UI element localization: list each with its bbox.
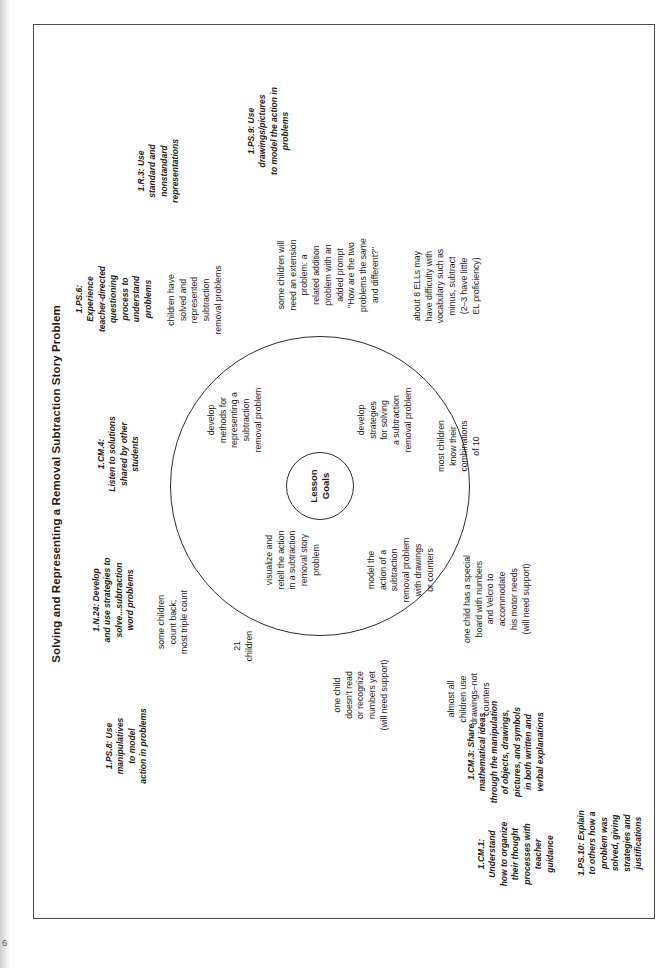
standard-1-r-3: 1.R.3: Use standard and nonstandard repr… bbox=[136, 118, 182, 224]
note-ell-support: about 8 ELLs may have difficulty with vo… bbox=[412, 226, 482, 346]
standard-1-cm-1: 1.CM.1: Understand how to organize their… bbox=[476, 804, 556, 904]
note-nonreader-support: one child doesn't read or recognize numb… bbox=[332, 636, 391, 754]
goal-develop-strategies: develop strategies for solving a subtrac… bbox=[356, 368, 415, 472]
note-prior-experience: children have solved and represented sub… bbox=[166, 246, 225, 354]
standard-1-n-24: 1.N.24: Develop and use strategies to so… bbox=[91, 534, 137, 666]
goal-develop-methods: develop methods for representing a subtr… bbox=[206, 368, 265, 472]
standard-1-ps-9: 1.PS.9: Use drawings/pictures to model t… bbox=[246, 60, 292, 202]
page-canvas: 6 Solving and Representing a Removal Sub… bbox=[0, 0, 672, 968]
standard-1-ps-10: 1.PS.10: Explain to others how a problem… bbox=[576, 784, 645, 902]
lesson-goals-label: Lesson Goals bbox=[308, 457, 332, 515]
note-children-count: 21 children bbox=[232, 616, 255, 676]
note-counting-strategies: some children count back; most triple co… bbox=[156, 566, 191, 678]
concept-map-stage: Solving and Representing a Removal Subtr… bbox=[36, 44, 636, 924]
page-number: 6 bbox=[2, 938, 7, 948]
goal-model-action: model the action of a subtraction remova… bbox=[366, 516, 436, 624]
inner-circle: Lesson Goals bbox=[286, 452, 354, 520]
note-extension-problem: some children will need an extension pro… bbox=[276, 218, 382, 332]
standard-1-cm-4: 1.CM.4: Listen to solutions shared by ot… bbox=[96, 390, 142, 518]
goal-visualize-retell: visualize and retell the action in a sub… bbox=[264, 514, 323, 606]
standard-1-ps-6: 1.PS.6: Experience teacher-directed ques… bbox=[74, 246, 154, 352]
scan-edge-shadow bbox=[0, 0, 10, 968]
note-drawings-not-counters: almost all children use drawings–not cou… bbox=[446, 650, 493, 748]
note-combinations-of-ten: most children know their combinations of… bbox=[436, 400, 483, 492]
diagram-title: Solving and Representing a Removal Subtr… bbox=[50, 44, 62, 924]
standard-1-ps-8: 1.PS.8: Use manipulatives to model actio… bbox=[104, 686, 150, 806]
